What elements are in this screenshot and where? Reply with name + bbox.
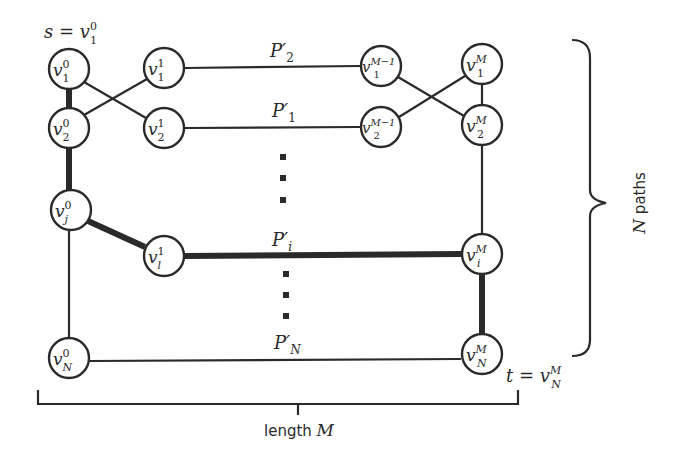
bracket-line xyxy=(38,390,518,404)
edge-vj_0-vl_1 xyxy=(88,221,145,247)
path-label-PN: P′N xyxy=(273,332,301,357)
source-label: s = v01 xyxy=(44,20,97,47)
length-bracket xyxy=(38,390,518,415)
edge-v1_0-v2_1 xyxy=(84,82,146,118)
paths-brace xyxy=(572,40,606,356)
dot xyxy=(280,154,286,160)
path-label-P1: P′1 xyxy=(271,100,296,125)
target-label: t = vMN xyxy=(506,364,562,391)
dot xyxy=(283,271,289,277)
dot xyxy=(283,313,289,319)
dot xyxy=(280,175,286,181)
paths-label: N paths xyxy=(629,172,649,235)
bold-path-edges xyxy=(69,89,482,333)
edge-PN xyxy=(90,359,461,361)
path-label-Pi: P′i xyxy=(271,229,292,254)
path-label-P2: P′2 xyxy=(269,40,294,65)
dot xyxy=(280,197,286,203)
edge-v2_0-v1_1 xyxy=(84,79,147,115)
length-label: length M xyxy=(264,420,335,440)
edge-Pi xyxy=(185,254,461,256)
edge-P1 xyxy=(185,127,360,128)
path-graph-diagram: v01 v02 v0j v0N v11 v12 v1l vM−11 vM−12 … xyxy=(0,0,677,459)
edge-P2 xyxy=(185,66,360,68)
dot xyxy=(283,292,289,298)
